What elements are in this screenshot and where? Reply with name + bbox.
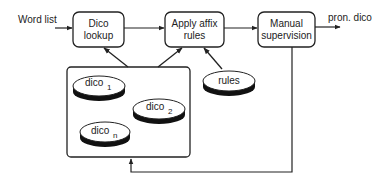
arrow-dicos-to-lookup: [104, 48, 128, 67]
dico-n-subscript: n: [113, 131, 117, 140]
arrow-dicos-to-affix: [158, 48, 182, 67]
rules-label: rules: [218, 75, 240, 86]
output-label: pron. dico: [328, 12, 372, 23]
dico-n-label: dico: [91, 125, 110, 136]
apply-affix-line1: Apply affix: [172, 18, 218, 29]
apply-affix-line2: rules: [184, 30, 206, 41]
dico-1-label: dico: [85, 77, 104, 88]
dico-1-disk: dico 1: [73, 76, 125, 101]
manual-supervision-box: Manual supervision: [258, 12, 315, 47]
dico-n-disk: dico n: [80, 122, 130, 147]
rules-disk: rules: [203, 71, 255, 96]
dico-2-label: dico: [146, 101, 165, 112]
apply-affix-rules-box: Apply affix rules: [165, 12, 224, 47]
dico-lookup-line2: lookup: [84, 30, 114, 41]
manual-supervision-line2: supervision: [261, 30, 312, 41]
manual-supervision-line1: Manual: [270, 18, 303, 29]
arrow-rules-to-affix: [204, 48, 222, 69]
dico-lookup-box: Dico lookup: [73, 12, 124, 47]
dico-2-disk: dico 2: [133, 99, 185, 124]
dico-1-subscript: 1: [107, 83, 112, 92]
input-label: Word list: [18, 14, 57, 25]
dico-2-subscript: 2: [168, 107, 173, 116]
dico-lookup-line1: Dico: [88, 18, 108, 29]
pipeline-diagram: Word list Dico lookup Apply affix rules …: [0, 0, 383, 182]
